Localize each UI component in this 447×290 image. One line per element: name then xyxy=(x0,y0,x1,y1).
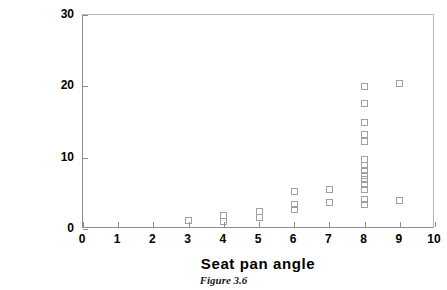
x-tick-mark xyxy=(365,222,366,227)
data-point-marker xyxy=(256,214,263,221)
data-point-marker xyxy=(291,188,298,195)
y-tick-mark xyxy=(83,86,88,87)
data-point-marker xyxy=(361,100,368,107)
figure-3-6: Back rest angle 012345678910 0102030 Sea… xyxy=(0,0,447,290)
y-tick-mark xyxy=(83,15,88,16)
x-tick-label: 9 xyxy=(379,233,419,245)
data-point-marker xyxy=(326,199,333,206)
x-tick-label: 2 xyxy=(132,233,172,245)
x-tick-label: 3 xyxy=(168,233,208,245)
x-tick-mark xyxy=(189,222,190,227)
x-tick-label: 7 xyxy=(308,233,348,245)
plot-area xyxy=(82,14,434,228)
data-point-marker xyxy=(361,83,368,90)
x-tick-label: 4 xyxy=(203,233,243,245)
x-tick-mark xyxy=(224,222,225,227)
x-tick-mark xyxy=(329,222,330,227)
x-tick-mark xyxy=(118,222,119,227)
y-tick-mark xyxy=(83,158,88,159)
x-axis-title: Seat pan angle xyxy=(82,256,434,271)
data-point-marker xyxy=(396,197,403,204)
x-tick-mark xyxy=(83,222,84,227)
x-tick-label: 8 xyxy=(344,233,384,245)
data-point-marker xyxy=(361,201,368,208)
y-tick-label: 0 xyxy=(40,222,74,234)
y-tick-label: 10 xyxy=(40,151,74,163)
y-axis-title: Back rest angle xyxy=(0,0,30,44)
data-point-marker xyxy=(361,119,368,126)
x-tick-label: 1 xyxy=(97,233,137,245)
data-point-marker xyxy=(361,131,368,138)
data-point-marker xyxy=(361,138,368,145)
data-point-marker xyxy=(326,186,333,193)
x-tick-mark xyxy=(294,222,295,227)
x-tick-label: 5 xyxy=(238,233,278,245)
figure-caption: Figure 3.6 xyxy=(0,275,447,286)
data-point-marker xyxy=(396,80,403,87)
x-tick-mark xyxy=(153,222,154,227)
y-tick-label: 20 xyxy=(40,79,74,91)
x-tick-mark xyxy=(400,222,401,227)
data-point-marker xyxy=(291,206,298,213)
y-tick-mark xyxy=(83,229,88,230)
data-point-marker xyxy=(361,186,368,193)
x-tick-label: 6 xyxy=(273,233,313,245)
x-tick-mark xyxy=(435,222,436,227)
x-tick-label: 10 xyxy=(414,233,447,245)
x-tick-mark xyxy=(259,222,260,227)
y-tick-label: 30 xyxy=(40,8,74,20)
